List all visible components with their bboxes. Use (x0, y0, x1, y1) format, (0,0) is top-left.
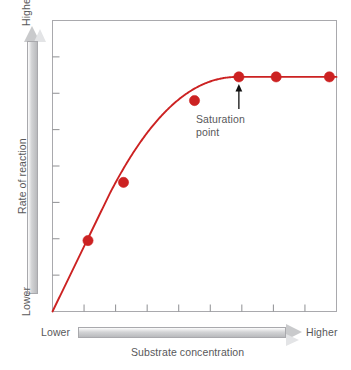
y-axis-ticks (53, 57, 60, 275)
chart-plot-svg (0, 0, 351, 370)
data-point-markers (83, 72, 335, 246)
x-axis-ticks (84, 305, 305, 312)
saturation-point-arrow-icon (235, 84, 242, 109)
enzyme-saturation-chart: Higher Lower Rate of reaction Lower High… (0, 0, 351, 370)
saturation-curve (53, 77, 337, 312)
